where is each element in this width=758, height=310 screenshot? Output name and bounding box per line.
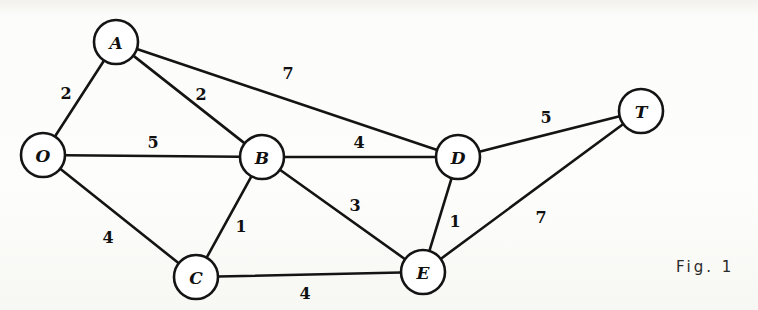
edge-weight-o-b: 5 [147, 133, 158, 152]
edge-weight-e-t: 7 [535, 208, 546, 227]
node-label-d: D [450, 148, 466, 168]
graph-node-c: C [174, 255, 218, 299]
edge-weight-d-e: 1 [449, 212, 460, 231]
graph-node-b: B [240, 135, 284, 179]
edge-weight-b-d: 4 [353, 133, 364, 152]
graph-node-t: T [619, 89, 663, 133]
edge-weight-b-e: 3 [349, 196, 360, 215]
edge-weight-c-e: 4 [299, 284, 310, 303]
edge-weight-o-a: 2 [60, 84, 71, 103]
node-label-a: A [107, 33, 122, 53]
node-layer: OABCDET [21, 20, 663, 299]
edge-weight-layer: 254271434157 [60, 64, 551, 303]
graph-node-o: O [21, 133, 65, 177]
edge-weight-a-b: 2 [195, 85, 206, 104]
figure-caption: Fig. 1 [676, 258, 734, 276]
node-label-o: O [36, 146, 51, 166]
edge-weight-a-d: 7 [282, 64, 293, 83]
node-label-t: T [635, 102, 649, 122]
graph-edge-d-e [429, 178, 451, 251]
graph-edge-o-b [65, 155, 240, 157]
edge-weight-o-c: 4 [102, 228, 113, 247]
graph-edge-c-e [218, 272, 401, 276]
graph-edge-o-c [60, 169, 179, 264]
edge-weight-b-c: 1 [235, 217, 246, 236]
node-label-c: C [189, 268, 203, 288]
graph-node-e: E [401, 250, 445, 294]
edge-layer [55, 49, 623, 277]
node-label-b: B [254, 148, 269, 168]
graph-node-d: D [436, 135, 480, 179]
figure-container: OABCDET 254271434157 Fig. 1 [0, 0, 758, 310]
graph-edge-b-e [280, 170, 405, 259]
weighted-graph-diagram: OABCDET 254271434157 [0, 0, 758, 310]
graph-node-a: A [94, 20, 138, 64]
edge-weight-d-t: 5 [540, 108, 551, 127]
graph-edge-a-b [133, 56, 244, 144]
node-label-e: E [416, 263, 431, 283]
